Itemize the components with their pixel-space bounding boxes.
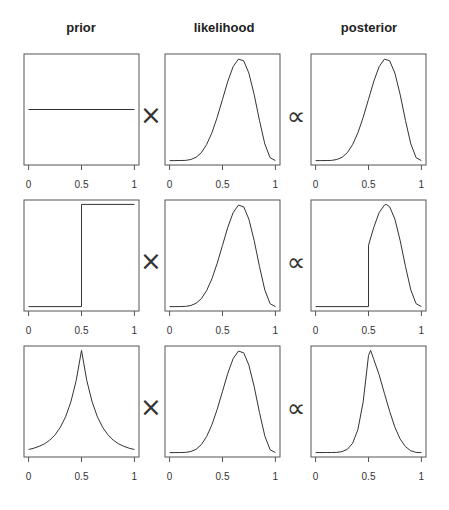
plot-frame	[311, 346, 426, 457]
likelihood-curve	[170, 351, 276, 453]
times-operator-row2: ×	[139, 248, 163, 274]
tick-label: 0.5	[75, 471, 89, 482]
tick-label: 0	[167, 325, 173, 336]
plot-frame	[165, 200, 280, 311]
tick-label: 1	[273, 471, 279, 482]
posterior-curve	[316, 59, 422, 161]
column-title-posterior: posterior	[309, 20, 429, 35]
tick-label: 0	[26, 179, 32, 190]
plot-prior-row2: 00.51	[23, 199, 140, 344]
tick-label: 0.5	[362, 325, 376, 336]
plot-prior-row3: 00.51	[23, 345, 140, 490]
tick-label: 0.5	[216, 179, 230, 190]
tick-label: 0	[313, 471, 319, 482]
plot-prior-row1: 00.51	[23, 53, 140, 198]
prior-curve	[29, 350, 135, 449]
tick-label: 0.5	[75, 179, 89, 190]
tick-label: 0	[167, 179, 173, 190]
column-title-prior: prior	[21, 20, 141, 35]
tick-label: 0.5	[362, 179, 376, 190]
tick-label: 1	[419, 471, 425, 482]
tick-label: 0	[313, 179, 319, 190]
tick-label: 1	[132, 179, 138, 190]
proportional-operator-row2: ∝	[284, 249, 308, 275]
tick-label: 0.5	[362, 471, 376, 482]
likelihood-curve	[170, 205, 276, 307]
plot-frame	[165, 54, 280, 165]
tick-label: 1	[132, 471, 138, 482]
times-operator-row3: ×	[139, 394, 163, 420]
tick-label: 0.5	[216, 325, 230, 336]
plot-posterior-row2: 00.51	[310, 199, 427, 344]
posterior-curve	[316, 350, 422, 452]
proportional-operator-row3: ∝	[284, 395, 308, 421]
plot-likelihood-row2: 00.51	[164, 199, 281, 344]
prior-curve	[29, 204, 135, 306]
column-title-likelihood: likelihood	[164, 20, 284, 35]
posterior-curve	[316, 204, 422, 306]
tick-label: 0	[167, 471, 173, 482]
tick-label: 0.5	[75, 325, 89, 336]
plot-frame	[24, 346, 139, 457]
plot-likelihood-row3: 00.51	[164, 345, 281, 490]
tick-label: 1	[273, 179, 279, 190]
likelihood-curve	[170, 59, 276, 161]
tick-label: 1	[132, 325, 138, 336]
plot-frame	[165, 346, 280, 457]
plot-posterior-row1: 00.51	[310, 53, 427, 198]
proportional-operator-row1: ∝	[284, 103, 308, 129]
times-operator-row1: ×	[139, 102, 163, 128]
tick-label: 0	[26, 471, 32, 482]
plot-posterior-row3: 00.51	[310, 345, 427, 490]
tick-label: 1	[419, 325, 425, 336]
plot-frame	[311, 54, 426, 165]
plot-likelihood-row1: 00.51	[164, 53, 281, 198]
tick-label: 1	[419, 179, 425, 190]
tick-label: 0	[26, 325, 32, 336]
tick-label: 0.5	[216, 471, 230, 482]
tick-label: 0	[313, 325, 319, 336]
tick-label: 1	[273, 325, 279, 336]
